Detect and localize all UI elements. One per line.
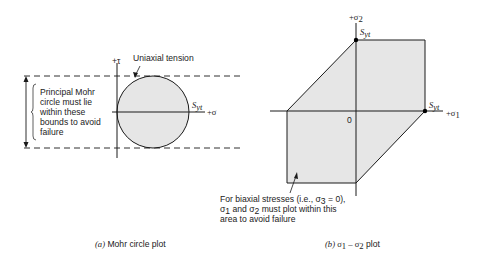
bounds-note-line: circle must lie <box>40 97 92 107</box>
sigma-axis-label: +σ <box>207 107 217 117</box>
bounds-note-line: within these <box>39 107 86 117</box>
sigma1-axis-label: +σ1 <box>446 108 460 120</box>
syt-label-top: Syt <box>360 27 371 39</box>
arrow-up-head-icon <box>24 76 29 82</box>
bounds-note-line: failure <box>40 127 64 137</box>
biaxial-note-line-3: area to avoid failure <box>220 214 296 224</box>
panel-b-sigma1-sigma2-plot: +σ2 Syt Syt +σ1 0 For biaxial stresses (… <box>220 12 460 251</box>
syt-label-right: Syt <box>429 100 440 112</box>
tau-axis-label: +τ <box>112 56 121 66</box>
syt-point-sigma2 <box>354 38 358 42</box>
origin-label: 0 <box>347 115 352 125</box>
leader-arrow-icon <box>133 72 138 78</box>
biaxial-note: For biaxial stresses (i.e., σ3 = 0), σ1 … <box>220 194 345 224</box>
uniaxial-tension-label: Uniaxial tension <box>133 53 194 63</box>
caption-a: (a) Mohr circle plot <box>95 239 166 249</box>
arrow-down-head-icon <box>24 142 29 148</box>
figure-canvas: Uniaxial tension +τ +σ Syt Principal Moh… <box>0 0 479 259</box>
brace-icon <box>31 84 36 140</box>
syt-point-sigma1 <box>423 109 427 113</box>
bounds-note-line: Principal Mohr <box>40 87 95 97</box>
panel-a-mohr-circle: Uniaxial tension +τ +σ Syt Principal Moh… <box>24 53 241 249</box>
sigma2-axis-label: +σ2 <box>349 12 363 24</box>
bounds-note-line: bounds to avoid <box>40 117 101 127</box>
bounds-note: Principal Mohr circle must lie within th… <box>39 87 101 137</box>
caption-b: (b) σ1 – σ2 plot <box>325 239 380 251</box>
syt-label-a: Syt <box>192 100 203 112</box>
